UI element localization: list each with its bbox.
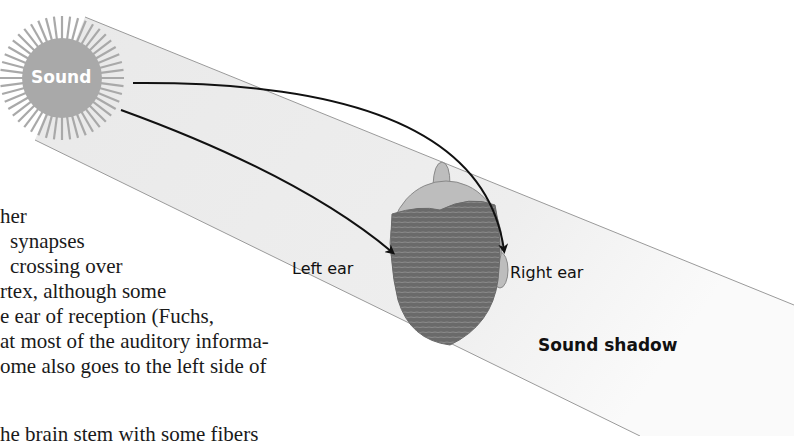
left-ear-label: Left ear: [292, 259, 353, 278]
sound-shadow-label: Sound shadow: [538, 335, 677, 355]
sound-source-label: Sound: [31, 67, 91, 87]
text-line: e ear of reception (Fuchs,: [0, 303, 214, 329]
text-line: synapses: [10, 228, 85, 254]
right-ear-label: Right ear: [510, 263, 583, 282]
text-line: crossing over: [10, 253, 123, 279]
text-line: he brain stem with some fibers: [0, 421, 258, 445]
text-line: at most of the auditory informa-: [0, 328, 269, 354]
text-line: her: [0, 203, 27, 229]
text-line: ome also goes to the left side of: [0, 353, 267, 379]
text-line: rtex, although some: [0, 278, 166, 304]
